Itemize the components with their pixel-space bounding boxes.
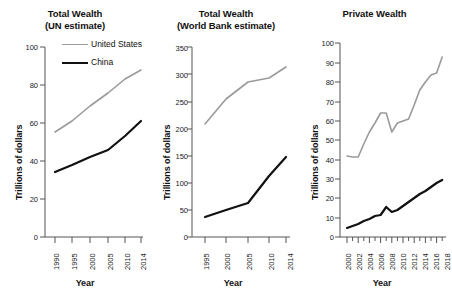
panel-private-wealth: Private Wealth Trillions of dollars 0 10…: [302, 0, 447, 297]
panel-3-series-united-states: [347, 57, 442, 157]
panel-2-plot: [150, 0, 302, 297]
panel-total-wealth-world-bank: Total Wealth (World Bank estimate) Trill…: [150, 0, 302, 297]
panel-1-series-china: [55, 121, 141, 172]
panel-2-series-china: [205, 157, 286, 217]
panel-3-plot: [302, 0, 447, 297]
panel-total-wealth-un: Total Wealth (UN estimate) United States…: [0, 0, 150, 297]
panel-2-series-united-states: [205, 67, 286, 124]
panel-3-series-china: [347, 180, 442, 228]
panel-1-plot: [0, 0, 150, 297]
panel-1-series-united-states: [55, 70, 141, 132]
